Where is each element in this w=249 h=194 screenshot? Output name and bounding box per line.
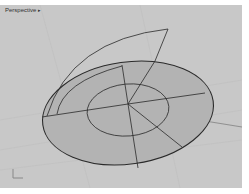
perspective-viewport[interactable]: Perspective ▸ [0,5,242,188]
disc-surface [36,51,221,176]
scene-geometry [0,5,242,188]
x-axis-line [205,121,242,127]
axis-widget-icon [10,165,26,181]
